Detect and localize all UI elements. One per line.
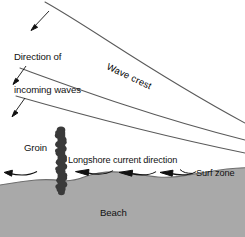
groin-structure: [55, 127, 68, 196]
incoming-waves-label-line1: Direction of: [14, 52, 81, 63]
surf-zone-leader-line: [180, 170, 193, 174]
incoming-arrow-1: [31, 11, 49, 31]
groin-label: Groin: [24, 143, 47, 154]
incoming-waves-label-group: Direction of incoming waves: [14, 31, 81, 117]
incoming-waves-label-line2: incoming waves: [14, 85, 81, 96]
longshore-arrow-1: [4, 170, 37, 176]
longshore-current-label: Longshore current direction: [68, 155, 177, 165]
surf-zone-label: Surf zone: [196, 168, 234, 178]
beach-label: Beach: [100, 208, 127, 219]
diagram-canvas: Direction of incoming waves Wave crest G…: [0, 0, 245, 237]
